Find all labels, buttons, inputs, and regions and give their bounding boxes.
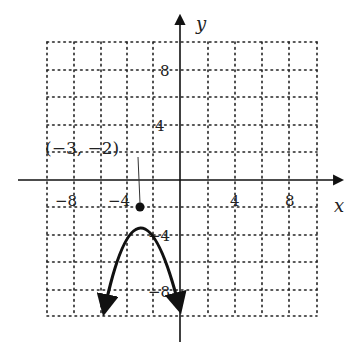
y-tick-label: 4 (155, 117, 165, 135)
y-axis-label: y (195, 13, 207, 34)
x-tick-label: 8 (285, 192, 295, 210)
vertex-label: (−3, −2) (45, 138, 119, 158)
grid (47, 42, 317, 316)
x-tick-label: 4 (230, 192, 240, 210)
coordinate-plane: x y −8 −4 4 8 8 4 −4 −8 (−3, −2) (0, 0, 361, 351)
y-tick-label: −8 (148, 283, 170, 301)
vertex-point (136, 203, 145, 212)
y-tick-label: 8 (160, 62, 170, 80)
x-tick-label: −4 (108, 192, 130, 210)
x-axis-label: x (334, 195, 344, 216)
x-tick-label: −8 (55, 192, 77, 210)
